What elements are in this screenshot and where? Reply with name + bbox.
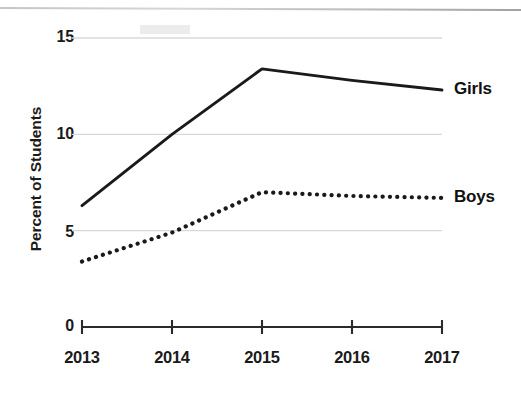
series-line-boys <box>82 192 442 261</box>
series-line-girls <box>82 69 442 206</box>
axes-group <box>82 320 442 334</box>
plot-area <box>0 0 521 399</box>
series-paths-group <box>82 69 442 262</box>
gridlines-group <box>72 38 442 231</box>
line-chart-figure: Percent of Students 15 10 5 0 2013 2014 … <box>0 0 521 399</box>
